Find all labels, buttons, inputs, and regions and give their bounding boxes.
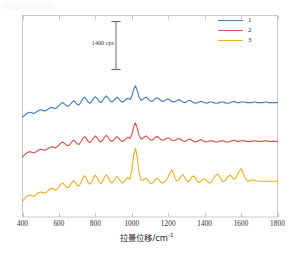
x-axis-title: 拉曼位移/cm-1 [0, 231, 294, 243]
x-axis-tick-marks [24, 16, 279, 218]
x-tick-label: 600 [42, 220, 76, 228]
x-axis-title-base: 拉曼位移/cm [120, 233, 168, 243]
legend-item-3[interactable]: 3 [218, 35, 278, 45]
x-tick-label: 1000 [115, 220, 149, 228]
x-tick-label: 400 [6, 220, 40, 228]
scale-bar-label: 1400 cps [74, 39, 114, 46]
figure-container: 40060080010001200140016001800 1400 cps 拉… [0, 0, 294, 257]
x-tick-label: 1400 [188, 220, 222, 228]
x-tick-label: 1800 [261, 220, 295, 228]
chart-legend: 123 [218, 15, 278, 45]
legend-color-swatch [218, 30, 243, 31]
legend-item-label: 2 [248, 25, 252, 35]
legend-color-swatch [218, 20, 243, 21]
plot-frame [23, 16, 278, 218]
legend-color-swatch [218, 40, 243, 41]
x-axis-title-exponent: -1 [168, 232, 174, 238]
spectra-series-group [23, 86, 278, 201]
spectrum-line-1 [23, 86, 278, 117]
x-tick-label: 1200 [151, 220, 185, 228]
legend-item-label: 1 [248, 15, 252, 25]
legend-item-1[interactable]: 1 [218, 15, 278, 25]
spectrum-line-2 [23, 123, 278, 157]
spectrum-line-3 [23, 148, 278, 201]
x-tick-label: 800 [78, 220, 112, 228]
legend-item-label: 3 [248, 35, 252, 45]
x-tick-label: 1600 [224, 220, 258, 228]
legend-item-2[interactable]: 2 [218, 25, 278, 35]
